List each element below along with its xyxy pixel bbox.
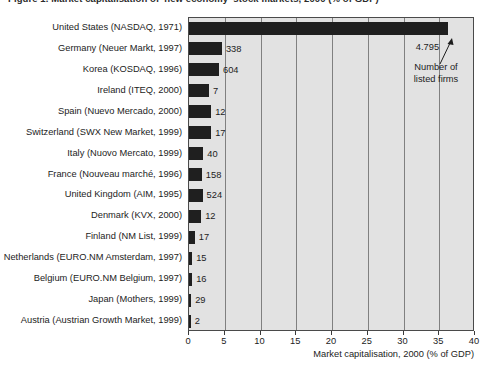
x-axis-tick-label: 15 (290, 336, 300, 346)
x-axis-tick-label: 35 (433, 336, 443, 346)
x-axis-tick (295, 331, 296, 335)
category-label: Germany (Neuer Markt, 1997) (58, 38, 182, 59)
x-axis-tick (188, 331, 189, 335)
bar (189, 189, 203, 202)
bar (189, 22, 448, 35)
x-axis-tick (438, 331, 439, 335)
category-label: United Kingdom (AIM, 1995) (65, 184, 182, 205)
bar-value-label: 158 (202, 168, 222, 182)
bar (189, 63, 219, 76)
category-label: Denmark (KVX, 2000) (91, 205, 182, 226)
x-axis-tick (260, 331, 261, 335)
bar-row: 16 (189, 269, 475, 290)
bar-chart: Figure 1. Market capitalisation of 'new … (0, 0, 485, 367)
bar-value-label: 12 (211, 105, 225, 119)
bar (189, 210, 201, 223)
figure-caption: Figure 1. Market capitalisation of 'new … (8, 0, 478, 5)
x-axis-tick (403, 331, 404, 335)
bar-row: 29 (189, 290, 475, 311)
bar (189, 105, 211, 118)
x-axis-tick (331, 331, 332, 335)
category-label: Finland (NM List, 1999) (85, 226, 182, 247)
bar-row: 158 (189, 165, 475, 186)
category-label: Netherlands (EURO.NM Amsterdam, 1997) (4, 247, 182, 268)
bar-row: 12 (189, 102, 475, 123)
x-axis-tick-label: 25 (362, 336, 372, 346)
x-axis-tick-label: 40 (469, 336, 479, 346)
bar-row: 2 (189, 311, 475, 332)
x-axis-tick-label: 10 (254, 336, 264, 346)
x-axis-tick (367, 331, 368, 335)
x-axis-tick-label: 0 (185, 336, 190, 346)
bar-row: 524 (189, 185, 475, 206)
x-axis-tick-label: 20 (326, 336, 336, 346)
category-label: United States (NASDAQ, 1971) (52, 17, 182, 38)
category-label: Switzerland (SWX New Market, 1999) (26, 122, 182, 143)
x-axis-title: Market capitalisation, 2000 (% of GDP) (313, 349, 474, 359)
bar-value-label: 604 (219, 63, 239, 77)
x-axis-tick (224, 331, 225, 335)
category-label: Japan (Mothers, 1999) (88, 289, 182, 310)
category-label: Spain (Nuevo Mercado, 2000) (58, 101, 182, 122)
annotation-line-2: listed firms (398, 74, 474, 86)
bar-value-label: 16 (192, 272, 206, 286)
category-axis: United States (NASDAQ, 1971)Germany (Neu… (0, 17, 185, 331)
bar-row: 40 (189, 144, 475, 165)
bar-row: 17 (189, 227, 475, 248)
x-axis-tick (474, 331, 475, 335)
x-axis-tick-label: 30 (397, 336, 407, 346)
bar-value-label: 7 (209, 84, 218, 98)
bar (189, 84, 209, 97)
bar (189, 126, 211, 139)
bar (189, 42, 222, 55)
bar-row: 17 (189, 123, 475, 144)
category-label: Italy (Nuovo Mercato, 1999) (67, 143, 182, 164)
bar-value-label: 17 (211, 126, 225, 140)
category-label: Austria (Austrian Growth Market, 1999) (21, 310, 182, 331)
bar-value-label: 524 (203, 188, 223, 202)
bar (189, 147, 203, 160)
annotation-label: Number of listed firms (398, 62, 474, 85)
bar-row: 15 (189, 248, 475, 269)
bar-value-label: 15 (192, 251, 206, 265)
annotation-line-1: Number of (398, 62, 474, 74)
bar-value-label: 40 (203, 147, 217, 161)
category-label: France (Nouveau marché, 1996) (48, 164, 182, 185)
bar-value-label: 12 (201, 209, 215, 223)
bar-value-label: 338 (222, 42, 242, 56)
bar (189, 168, 202, 181)
x-axis: 0510152025303540 (188, 331, 474, 351)
x-axis-tick-label: 5 (221, 336, 226, 346)
bar-value-label: 17 (195, 230, 209, 244)
bar-value-label: 2 (191, 314, 200, 328)
bar-row: 12 (189, 206, 475, 227)
category-label: Korea (KOSDAQ, 1996) (83, 59, 182, 80)
category-label: Ireland (ITEQ, 2000) (97, 80, 182, 101)
category-label: Belgium (EURO.NM Belgium, 1997) (34, 268, 182, 289)
bar-value-label: 29 (191, 293, 205, 307)
